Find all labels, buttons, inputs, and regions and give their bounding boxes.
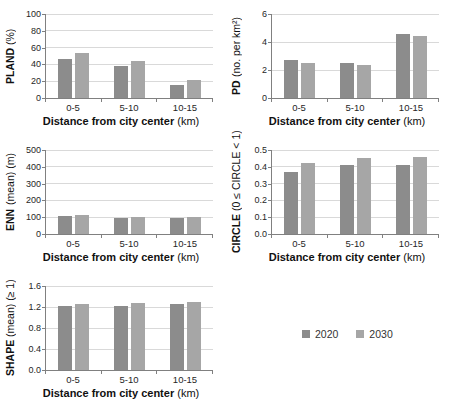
y-tick-label: 0.4 (241, 162, 267, 172)
x-tick-label: 5-10 (327, 102, 383, 113)
bar-2020-5-10 (340, 165, 354, 234)
y-axis-title-unit: (mean) (m) (4, 154, 16, 206)
x-tick-label: 5-10 (101, 374, 157, 385)
x-axis-title: Distance from city center (km) (17, 387, 225, 399)
bar-2020-10-15 (170, 218, 184, 234)
x-tick-label: 5-10 (101, 238, 157, 249)
bar-2030-5-10 (357, 65, 371, 98)
y-tick-label: 40 (15, 59, 41, 69)
y-tick-label: 0.8 (15, 323, 41, 333)
y-tick-label: 100 (15, 9, 41, 19)
y-tick-mark (42, 31, 45, 32)
x-tick-label: 0-5 (271, 238, 327, 249)
bar-2030-10-15 (187, 80, 201, 98)
x-tick-label: 0-5 (45, 102, 101, 113)
y-tick-label: 0.2 (241, 195, 267, 205)
gridline (46, 14, 213, 15)
y-tick-mark (42, 64, 45, 65)
bar-2030-5-10 (357, 158, 371, 234)
y-tick-label: 0.4 (15, 344, 41, 354)
x-tick-label: 0-5 (271, 102, 327, 113)
bar-2030-0-5 (301, 163, 315, 234)
y-tick-label: 20 (15, 76, 41, 86)
y-tick-label: 0.5 (241, 145, 267, 155)
legend-label: 2020 (315, 328, 338, 340)
legend-label: 2030 (369, 328, 392, 340)
y-tick-mark (42, 328, 45, 329)
bar-2030-10-15 (187, 302, 201, 370)
legend: 20202030 (302, 328, 393, 340)
x-tick-labels: 0-55-1010-15 (271, 102, 439, 113)
x-tick-label: 10-15 (157, 238, 213, 249)
plot-area (271, 14, 439, 99)
y-tick-mark (268, 70, 271, 71)
x-axis-title-unit: (km) (177, 115, 199, 127)
x-axis-title-main: Distance from city center (269, 115, 404, 127)
plot-area (45, 14, 213, 99)
y-axis-title-unit: (no. per km²) (230, 17, 242, 77)
bar-2030-0-5 (75, 53, 89, 98)
x-axis-title-unit: (km) (177, 387, 199, 399)
y-tick-mark (268, 14, 271, 15)
y-tick-label: 0.0 (15, 365, 41, 375)
bar-2020-10-15 (396, 165, 410, 234)
bar-2030-0-5 (301, 63, 315, 98)
bar-2020-0-5 (58, 216, 72, 234)
y-tick-mark (42, 150, 45, 151)
legend-swatch-icon (356, 330, 364, 338)
x-tick-label: 0-5 (45, 374, 101, 385)
y-tick-mark (268, 200, 271, 201)
y-tick-mark (268, 184, 271, 185)
y-tick-label: 0.3 (241, 179, 267, 189)
x-tick-label: 10-15 (157, 102, 213, 113)
y-tick-mark (268, 150, 271, 151)
chart-enn: ENN (mean) (m)01002003004005000-55-1010-… (0, 140, 225, 276)
bar-2020-0-5 (58, 59, 72, 98)
y-axis-title-main: CIRCLE (230, 211, 242, 253)
x-tick-labels: 0-55-1010-15 (271, 238, 439, 249)
x-tick-label: 10-15 (383, 238, 439, 249)
x-axis-title-main: Distance from city center (43, 387, 178, 399)
x-axis-title: Distance from city center (km) (17, 251, 225, 263)
y-tick-mark (268, 42, 271, 43)
y-tick-mark (42, 349, 45, 350)
chart-pland: PLAND (%)0204060801000-55-1010-15Distanc… (0, 4, 225, 140)
y-tick-mark (42, 200, 45, 201)
x-tick-label: 10-15 (383, 102, 439, 113)
plot-area (45, 150, 213, 235)
bar-2030-5-10 (131, 303, 145, 370)
gridline (46, 166, 213, 167)
y-tick-label: 400 (15, 162, 41, 172)
y-tick-mark (42, 48, 45, 49)
bar-2020-0-5 (284, 172, 298, 234)
y-tick-label: 0.1 (241, 212, 267, 222)
x-tick-label: 10-15 (157, 374, 213, 385)
y-tick-label: 0 (15, 229, 41, 239)
legend-swatch-icon (302, 330, 310, 338)
bar-2020-5-10 (340, 63, 354, 98)
y-tick-mark (42, 167, 45, 168)
bar-2020-10-15 (170, 85, 184, 98)
y-tick-mark (42, 217, 45, 218)
x-tick-label: 5-10 (327, 238, 383, 249)
figure-landscape-metrics: PLAND (%)0204060801000-55-1010-15Distanc… (0, 0, 451, 412)
bar-2020-5-10 (114, 218, 128, 234)
gridline (272, 14, 439, 15)
x-tick-labels: 0-55-1010-15 (45, 102, 213, 113)
y-tick-label: 500 (15, 145, 41, 155)
y-tick-label: 80 (15, 26, 41, 36)
y-tick-label: 200 (15, 195, 41, 205)
gridline (46, 286, 213, 287)
y-tick-mark (42, 14, 45, 15)
bar-2020-10-15 (396, 34, 410, 98)
chart-circle: CIRCLE (0 ≤ CIRCLE < 1)0.00.10.20.30.40.… (226, 140, 451, 276)
x-axis-title: Distance from city center (km) (243, 115, 451, 127)
bar-2030-5-10 (131, 61, 145, 98)
y-tick-mark (42, 286, 45, 287)
y-tick-mark (42, 81, 45, 82)
plot-area (271, 150, 439, 235)
y-tick-label: 300 (15, 179, 41, 189)
y-tick-label: 4 (241, 37, 267, 47)
gridline (46, 200, 213, 201)
legend-cell: 20202030 (226, 276, 451, 412)
